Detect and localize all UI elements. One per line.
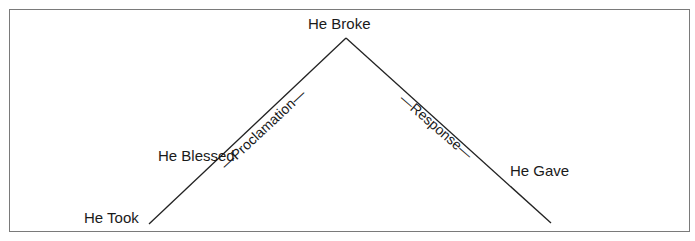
label-he-took: He Took: [84, 210, 139, 225]
inverted-v-lines: [0, 0, 695, 241]
label-he-broke: He Broke: [308, 16, 371, 31]
label-he-gave: He Gave: [510, 163, 569, 178]
